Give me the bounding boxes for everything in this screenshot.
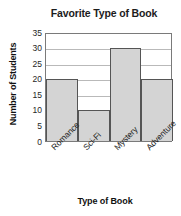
y-axis-tick-label: 20 [26,75,42,84]
y-axis-tick-label: 25 [26,60,42,69]
y-axis-tick-label: 0 [26,138,42,147]
y-axis-tick-label: 35 [26,29,42,38]
chart-title: Favorite Type of Book [30,7,178,19]
gridline [46,65,171,66]
y-axis-tick-label: 30 [26,44,42,53]
y-axis-tick-label: 10 [26,106,42,115]
gridline [46,49,171,50]
x-axis-title: Type of Book [38,196,172,206]
plot-area [45,33,172,142]
bar [110,48,142,141]
y-axis-tick-label: 5 [26,122,42,131]
y-axis-title: Number of Students [8,29,18,139]
bar-chart: Favorite Type of Book Number of Students… [0,0,181,216]
y-axis-tick-label: 15 [26,91,42,100]
